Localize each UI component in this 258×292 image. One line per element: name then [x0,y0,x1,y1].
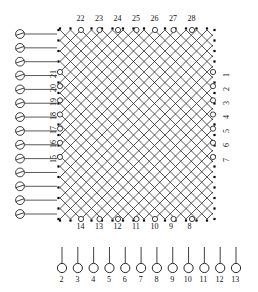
bottom-node-label: 8 [188,223,192,231]
bottom-node[interactable] [189,216,194,221]
bottom-node-label: 12 [114,223,122,231]
edge-dot-bottom [69,219,71,221]
legend-marker-label: 6 [123,276,127,284]
mesh-line-up [239,30,258,219]
mesh-line-up [197,30,258,219]
edge-dot-bottom [206,219,208,221]
mesh-line-down [81,30,257,219]
legend-marker-label: 11 [200,276,208,284]
mesh-line-down [144,30,257,219]
bottom-node[interactable] [78,216,83,221]
legend-marker-label: 9 [170,276,174,284]
left-inner-node[interactable] [57,112,62,117]
right-node[interactable] [210,140,215,145]
left-inner-node[interactable] [57,140,62,145]
mesh-line-up [0,30,18,219]
right-node-label: 1 [223,73,231,77]
mesh-line-down [0,30,165,219]
legend-marker-circle[interactable] [152,263,161,272]
mesh-line-up [0,30,165,219]
legend-marker-circle[interactable] [168,263,177,272]
legend-marker-label: 8 [155,276,159,284]
mesh-line-up [0,30,71,219]
legend-marker-circle[interactable] [89,263,98,272]
top-node[interactable] [97,27,102,32]
edge-dot-bottom [122,219,124,221]
top-node[interactable] [152,27,157,32]
mesh-line-down [228,30,257,219]
mesh-line-up [113,30,258,219]
edge-dot-top [90,27,92,29]
top-node-label: 22 [77,15,85,23]
top-node[interactable] [78,27,83,32]
mesh-line-down [0,30,176,219]
top-node[interactable] [189,27,194,32]
edge-dot-right [213,29,215,31]
mesh-line-up [249,30,257,219]
legend-marker-circle[interactable] [57,263,66,272]
mesh-line-down [0,30,71,219]
edge-dot-right [213,176,215,178]
bottom-node-label: 9 [169,223,173,231]
mesh-line-up [0,30,176,219]
right-node[interactable] [210,126,215,131]
edge-dot-right [213,218,215,220]
mesh-line-down [0,30,102,219]
mesh-line-down [123,30,257,219]
right-node[interactable] [210,84,215,89]
mesh-line-down [92,30,258,219]
edge-dot-top [122,27,124,29]
mesh-line-up [92,30,258,219]
legend-marker-circle[interactable] [73,263,82,272]
left-inner-node[interactable] [57,126,62,131]
right-node[interactable] [210,112,215,117]
lattice-diagram: 22232425262728 141312111098 1234567 2120… [0,0,257,292]
bottom-node[interactable] [115,216,120,221]
edge-dot-right [213,197,215,199]
edge-dot-top [143,27,145,29]
left-inner-node[interactable] [57,98,62,103]
edge-dot-top [69,27,71,29]
top-node-label: 23 [95,15,103,23]
bottom-node[interactable] [134,216,139,221]
legend-marker-circle[interactable] [231,263,240,272]
bottom-node[interactable] [152,216,157,221]
top-node[interactable] [115,27,120,32]
legend-marker-circle[interactable] [184,263,193,272]
legend-marker-circle[interactable] [200,263,209,272]
legend-marker-label: 10 [184,276,192,284]
right-node[interactable] [210,98,215,103]
edge-dot-bottom [195,219,197,221]
legend-marker-label: 3 [75,276,79,284]
legend-marker-circle[interactable] [216,263,225,272]
left-inner-node[interactable] [57,84,62,89]
right-node-label: 2 [223,87,231,91]
edge-dot-bottom [90,219,92,221]
edge-dot-left [57,207,59,209]
left-inner-node-label: 17 [50,126,58,134]
right-node[interactable] [210,69,215,74]
top-node-label: 24 [114,15,122,23]
left-inner-node-label: 19 [50,98,58,106]
top-node[interactable] [171,27,176,32]
mesh-line-down [0,30,50,219]
left-inner-node-label: 21 [50,70,58,78]
bottom-node[interactable] [171,216,176,221]
edge-dot-bottom [143,219,145,221]
right-node[interactable] [210,154,215,159]
edge-dot-top [185,27,187,29]
legend-marker-circle[interactable] [136,263,145,272]
top-node[interactable] [134,27,139,32]
mesh-line-up [102,30,257,219]
edge-dot-right [213,92,215,94]
legend-marker-circle[interactable] [121,263,130,272]
edge-dot-left [57,197,59,199]
mesh-line-up [0,30,8,219]
bottom-node[interactable] [97,216,102,221]
mesh-line-up [123,30,257,219]
edge-dot-left [57,39,59,41]
edge-dot-right [213,123,215,125]
left-inner-node[interactable] [57,154,62,159]
legend-marker-circle[interactable] [105,263,114,272]
left-inner-node[interactable] [57,69,62,74]
